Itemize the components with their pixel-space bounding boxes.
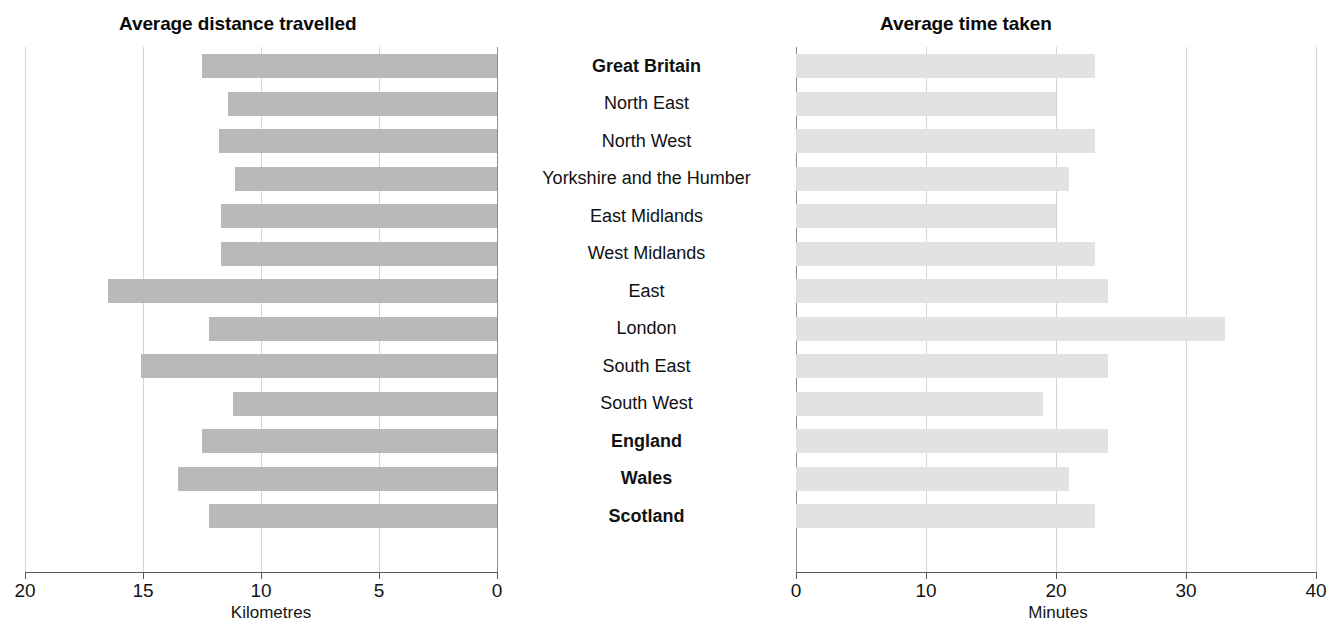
left-bar-row [25, 160, 497, 198]
left-axis-caption: Kilometres [231, 603, 311, 623]
category-row: Wales [497, 460, 796, 498]
category-label: South East [497, 355, 796, 376]
right-bar-row [796, 460, 1316, 498]
left-tick-mark [261, 572, 262, 579]
bar-time [796, 204, 1056, 228]
bar-distance [221, 242, 497, 266]
bar-distance [202, 429, 497, 453]
left-tick-label: 15 [132, 580, 153, 602]
right-chart-title: Average time taken [880, 13, 1052, 35]
category-label: South West [497, 393, 796, 414]
category-row: London [497, 310, 796, 348]
bar-distance [141, 354, 497, 378]
right-bar-row [796, 422, 1316, 460]
category-label: East Midlands [497, 205, 796, 226]
left-tick-label: 10 [250, 580, 271, 602]
left-bar-row [25, 272, 497, 310]
right-bar-row [796, 122, 1316, 160]
category-label: London [497, 318, 796, 339]
right-bar-row [796, 310, 1316, 348]
left-tick-mark [379, 572, 380, 579]
right-tick-label: 10 [915, 580, 936, 602]
bar-time [796, 167, 1069, 191]
category-row: Scotland [497, 497, 796, 535]
right-tick-mark [1186, 572, 1187, 579]
left-tick-label: 0 [492, 580, 503, 602]
right-tick-mark [796, 572, 797, 579]
bar-time [796, 317, 1225, 341]
right-bar-row [796, 497, 1316, 535]
category-row: East [497, 272, 796, 310]
category-row: Yorkshire and the Humber [497, 160, 796, 198]
right-bar-row [796, 85, 1316, 123]
left-chart-title: Average distance travelled [119, 13, 356, 35]
category-row: South East [497, 347, 796, 385]
bar-time [796, 429, 1108, 453]
bar-time [796, 392, 1043, 416]
left-tick-label: 5 [374, 580, 385, 602]
left-bar-row [25, 47, 497, 85]
bar-distance [233, 392, 497, 416]
bar-time [796, 92, 1056, 116]
left-bar-row [25, 497, 497, 535]
right-tick-mark [1056, 572, 1057, 579]
category-row: North West [497, 122, 796, 160]
category-label: West Midlands [497, 243, 796, 264]
bar-time [796, 129, 1095, 153]
right-gridline-40 [1316, 47, 1317, 572]
bar-distance [235, 167, 497, 191]
bar-distance [209, 504, 497, 528]
bar-distance [202, 54, 497, 78]
category-label: North West [497, 130, 796, 151]
bar-time [796, 354, 1108, 378]
bar-time [796, 467, 1069, 491]
category-row: South West [497, 385, 796, 423]
bar-time [796, 504, 1095, 528]
left-bar-row [25, 347, 497, 385]
bar-distance [178, 467, 497, 491]
left-chart-plot-area [25, 47, 497, 572]
category-label: East [497, 280, 796, 301]
bar-distance [108, 279, 497, 303]
right-axis-caption: Minutes [1028, 603, 1088, 623]
category-label-column: Great BritainNorth EastNorth WestYorkshi… [497, 47, 796, 572]
category-row: West Midlands [497, 235, 796, 273]
right-bar-row [796, 160, 1316, 198]
left-bar-row [25, 385, 497, 423]
right-tick-mark [1316, 572, 1317, 579]
category-label: North East [497, 93, 796, 114]
category-label: Wales [497, 468, 796, 489]
left-tick-mark [25, 572, 26, 579]
bar-time [796, 279, 1108, 303]
left-bar-row [25, 197, 497, 235]
right-bar-row [796, 235, 1316, 273]
right-tick-mark [926, 572, 927, 579]
left-bar-row [25, 85, 497, 123]
left-bar-row [25, 460, 497, 498]
bar-distance [221, 204, 497, 228]
left-bar-row [25, 235, 497, 273]
bar-time [796, 242, 1095, 266]
right-tick-label: 0 [791, 580, 802, 602]
right-bar-row [796, 197, 1316, 235]
left-tick-label: 20 [14, 580, 35, 602]
right-bar-row [796, 47, 1316, 85]
category-label: Yorkshire and the Humber [497, 168, 796, 189]
right-tick-label: 20 [1045, 580, 1066, 602]
category-label: Scotland [497, 505, 796, 526]
category-label: England [497, 430, 796, 451]
left-tick-mark [497, 572, 498, 579]
category-row: Great Britain [497, 47, 796, 85]
right-bar-row [796, 347, 1316, 385]
bar-distance [228, 92, 497, 116]
left-bar-row [25, 122, 497, 160]
category-row: North East [497, 85, 796, 123]
bar-distance [219, 129, 497, 153]
right-bar-row [796, 272, 1316, 310]
bar-distance [209, 317, 497, 341]
right-tick-label: 30 [1175, 580, 1196, 602]
right-tick-label: 40 [1305, 580, 1326, 602]
category-row: England [497, 422, 796, 460]
chart-canvas: Average distance travelled Average time … [0, 0, 1334, 633]
bar-time [796, 54, 1095, 78]
